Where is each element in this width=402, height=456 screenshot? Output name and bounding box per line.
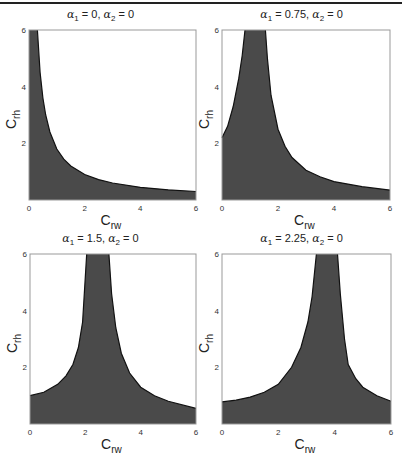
subplot-alpha1-1-5: α1 = 1.5, α2 = 00246246CrwCrh xyxy=(0,228,201,456)
y-axis-label: Crh xyxy=(3,110,22,129)
subplot-alpha1-0: α1 = 0, α2 = 00246246CrwCrh xyxy=(0,0,201,228)
y-tick-label: 2 xyxy=(22,139,27,148)
x-tick-label: 6 xyxy=(194,204,199,213)
y-axis-label-base: C xyxy=(196,119,212,129)
y-axis-label-subscript: rh xyxy=(204,334,215,343)
y-tick-label: 4 xyxy=(215,307,220,316)
x-axis-label: Crw xyxy=(295,436,316,455)
shaded-region xyxy=(222,30,390,200)
plot-area: 0246246 xyxy=(0,0,201,228)
x-tick-label: 0 xyxy=(27,204,32,213)
subplot-alpha1-2-25: α1 = 2.25, α2 = 00246246CrwCrh xyxy=(201,228,402,456)
x-tick-label: 2 xyxy=(83,428,88,437)
x-tick-label: 6 xyxy=(194,428,199,437)
shaded-region xyxy=(29,30,196,200)
x-axis-label-subscript: rw xyxy=(305,444,316,455)
x-tick-label: 0 xyxy=(220,204,225,213)
y-tick-label: 2 xyxy=(215,363,220,372)
x-tick-label: 4 xyxy=(332,428,337,437)
x-tick-label: 6 xyxy=(388,204,393,213)
y-tick-label: 6 xyxy=(215,26,220,35)
x-tick-label: 0 xyxy=(220,428,225,437)
x-axis-label: Crw xyxy=(101,436,122,455)
y-tick-label: 2 xyxy=(215,139,220,148)
y-axis-label-subscript: rh xyxy=(12,334,23,343)
y-axis-label-base: C xyxy=(4,343,20,353)
x-tick-label: 0 xyxy=(28,428,33,437)
y-tick-label: 6 xyxy=(23,250,28,259)
y-tick-label: 2 xyxy=(23,363,28,372)
y-tick-label: 4 xyxy=(23,307,28,316)
x-axis-label-base: C xyxy=(294,212,304,228)
plot-area: 0246246 xyxy=(201,0,402,228)
shaded-region xyxy=(222,254,391,424)
y-axis-label-base: C xyxy=(196,343,212,353)
y-tick-label: 6 xyxy=(22,26,27,35)
x-tick-label: 2 xyxy=(276,204,281,213)
x-tick-label: 4 xyxy=(138,204,143,213)
x-axis-label-base: C xyxy=(295,436,305,452)
x-tick-label: 4 xyxy=(138,428,143,437)
x-tick-label: 4 xyxy=(332,204,337,213)
plot-area: 0246246 xyxy=(201,228,402,456)
x-tick-label: 2 xyxy=(276,428,281,437)
y-axis-label-subscript: rh xyxy=(204,110,215,119)
x-tick-label: 2 xyxy=(82,204,87,213)
y-axis-label-base: C xyxy=(3,119,19,129)
y-axis-label-subscript: rh xyxy=(11,110,22,119)
y-axis-label: Crh xyxy=(196,334,215,353)
x-axis-label-base: C xyxy=(101,436,111,452)
y-axis-label: Crh xyxy=(196,110,215,129)
subplot-alpha1-0-75: α1 = 0.75, α2 = 00246246CrwCrh xyxy=(201,0,402,228)
x-tick-label: 6 xyxy=(389,428,394,437)
y-axis-label: Crh xyxy=(4,334,23,353)
plot-area: 0246246 xyxy=(0,228,201,456)
x-axis-label-subscript: rw xyxy=(111,444,122,455)
y-tick-label: 4 xyxy=(22,83,27,92)
shaded-region xyxy=(30,254,196,424)
x-axis-label-base: C xyxy=(101,212,111,228)
y-tick-label: 6 xyxy=(215,250,220,259)
y-tick-label: 4 xyxy=(215,83,220,92)
